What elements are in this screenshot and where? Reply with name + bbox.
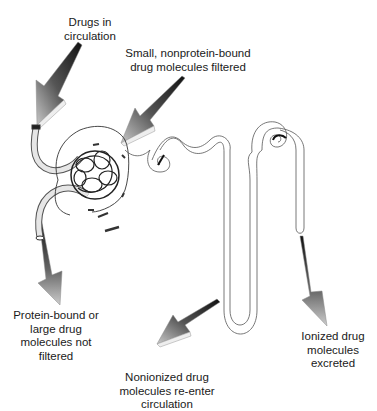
arrow-reabsorbed-icon	[157, 299, 220, 347]
label-drugs-in-circulation: Drugs in circulation	[50, 16, 130, 43]
label-reabsorbed: Nonionized drug molecules re-enter circu…	[105, 371, 229, 411]
arterioles	[32, 125, 88, 240]
label-not-filtered: Protein-bound or large drug molecules no…	[6, 309, 106, 363]
arrow-filtered-icon	[121, 76, 185, 146]
distal-tubule	[252, 122, 304, 234]
label-filtered: Small, nonprotein-bound drug molecules f…	[113, 47, 263, 74]
bowmans-capsule	[55, 126, 129, 231]
proximal-tubule	[125, 136, 230, 200]
arrow-drugs-in-circulation-icon	[36, 42, 82, 128]
label-excreted: Ionized drug molecules excreted	[289, 330, 377, 371]
arrow-excreted-icon	[300, 236, 327, 326]
glomerulus-icon	[71, 151, 119, 199]
